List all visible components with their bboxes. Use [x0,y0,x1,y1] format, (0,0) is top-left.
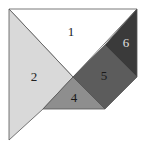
tangram-diagram: 12456 [0,0,141,143]
piece-label-2: 2 [31,69,38,84]
piece-label-5: 5 [101,68,108,83]
piece-label-4: 4 [71,90,78,105]
piece-label-1: 1 [68,24,75,39]
piece-label-6: 6 [123,35,130,50]
